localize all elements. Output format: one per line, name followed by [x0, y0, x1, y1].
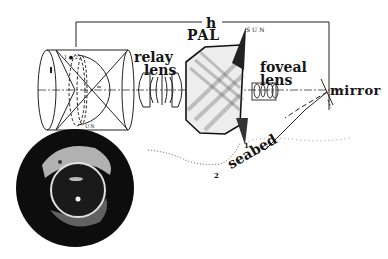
marker-2-label: 2	[214, 172, 219, 179]
sun-label-top: SUN	[246, 27, 266, 33]
sun-label-bottom: UN	[85, 124, 96, 129]
pal-label: PAL	[187, 28, 220, 42]
panoramic-image-photo	[16, 129, 134, 247]
relay-lens-label: lens	[144, 63, 176, 77]
marker-1-label: 1	[244, 142, 249, 149]
foveal-lens-label: lens	[260, 73, 292, 87]
pupil-markers-label: 1 ● 2	[64, 55, 78, 60]
mirror-label: mirror	[330, 84, 381, 97]
pal-block	[186, 27, 248, 145]
